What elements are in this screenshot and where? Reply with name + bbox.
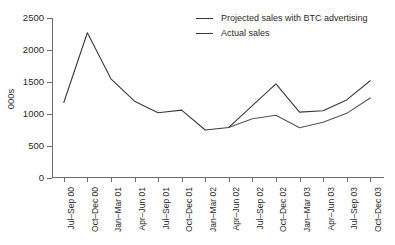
legend-item-projected: Projected sales with BTC advertising: [196, 14, 368, 23]
line-chart: 000s 05001000150020002500 Jul–Sep 00Oct–…: [0, 0, 395, 245]
legend: Projected sales with BTC advertising Act…: [196, 14, 368, 38]
legend-item-actual: Actual sales: [196, 29, 368, 38]
x-axis-tick-label: Apr–Jun 02: [232, 187, 241, 230]
y-axis-tick: [47, 178, 52, 179]
x-axis-tick-label: Jul–Sep 00: [67, 187, 76, 230]
x-axis-tick-label: Oct–Dec 03: [374, 187, 383, 232]
y-axis-tick-label: 2500: [23, 13, 44, 23]
legend-label-projected: Projected sales with BTC advertising: [221, 14, 368, 23]
series-lines: [52, 18, 382, 178]
x-axis-tick-label: Apr–Jun 01: [138, 187, 147, 230]
x-axis-tick-label: Jul–Sep 02: [256, 187, 265, 230]
x-axis-tick-label: Jan–Mar 02: [209, 187, 218, 232]
x-axis-tick-label: Jan–Mar 03: [303, 187, 312, 232]
x-axis-tick-label: Oct–Dec 00: [91, 187, 100, 232]
y-axis-tick-label: 500: [28, 141, 44, 151]
x-axis-tick-label: Jul–Sep 01: [162, 187, 171, 230]
y-axis-tick-label: 1000: [23, 109, 44, 119]
series-line: [64, 33, 370, 130]
x-axis-tick-label: Oct–Dec 02: [279, 187, 288, 232]
legend-label-actual: Actual sales: [221, 29, 270, 38]
x-axis-tick-label: Jul–Sep 03: [350, 187, 359, 230]
y-axis-tick-label: 1500: [23, 77, 44, 87]
x-axis-tick-label: Jan–Mar 01: [114, 187, 123, 232]
y-axis-tick-label: 2000: [23, 45, 44, 55]
y-axis-tick-label: 0: [39, 173, 44, 183]
series-line: [229, 98, 370, 128]
x-axis-tick-label: Oct–Dec 01: [185, 187, 194, 232]
plot-area: [52, 18, 382, 178]
y-axis-title: 000s: [6, 89, 16, 110]
legend-line-swatch-projected: [196, 18, 213, 19]
x-axis-tick-label: Apr–Jun 03: [327, 187, 336, 230]
legend-line-swatch-actual: [196, 33, 213, 34]
